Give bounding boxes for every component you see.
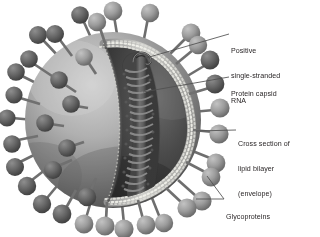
label-bilayer-line-2: lipid bilayer	[238, 165, 290, 173]
label-glyco-line-1: Glycoproteins	[226, 213, 270, 221]
virus-diagram-figure: Positive single-stranded RNA Protein cap…	[0, 0, 320, 237]
label-glycoproteins: Glycoproteins	[226, 196, 270, 237]
label-protein-capsid: Protein capsid	[231, 73, 277, 115]
label-capsid-line-1: Protein capsid	[231, 90, 277, 98]
label-rna-line-1: Positive	[231, 47, 280, 55]
label-bilayer-line-1: Cross section of	[238, 140, 290, 148]
